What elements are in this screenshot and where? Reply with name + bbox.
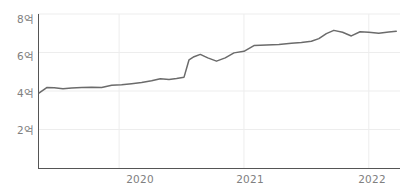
y-tick-label-2: 2억 (0, 125, 34, 136)
x-tick-label-2022: 2022 (349, 174, 395, 185)
x-tick-label-2020: 2020 (117, 174, 163, 185)
line-chart: 8억 6억 4억 2억 2020 2021 2022 (0, 0, 407, 193)
y-tick-label-6: 6억 (0, 51, 34, 62)
gridlines (38, 14, 400, 168)
x-tick-label-2021: 2021 (227, 174, 273, 185)
chart-plot-area (0, 0, 407, 193)
series-line-1 (39, 30, 396, 93)
y-tick-label-4: 4억 (0, 88, 34, 99)
y-tick-label-8: 8억 (0, 14, 34, 25)
